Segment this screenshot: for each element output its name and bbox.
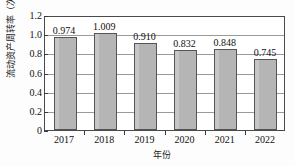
bar-value-label: 0.848 — [203, 37, 247, 48]
bar-value-label: 0.832 — [163, 38, 207, 49]
y-tick-label: 0 — [16, 126, 42, 136]
y-tick-label: 0.6 — [16, 69, 42, 79]
bar-value-label: 0.745 — [243, 47, 287, 58]
y-tick-label: 0.4 — [16, 88, 42, 98]
y-tick-mark — [44, 131, 48, 132]
bar-value-label: 0.910 — [122, 31, 166, 42]
bar — [174, 50, 197, 130]
bar-highlight — [255, 60, 259, 129]
bar-highlight — [215, 50, 219, 129]
bar-highlight — [95, 34, 99, 129]
x-tick-label: 2019 — [121, 134, 167, 145]
bar — [214, 49, 237, 130]
gridline — [45, 93, 284, 94]
bar — [94, 33, 117, 130]
y-tick-mark — [44, 54, 48, 55]
y-tick-mark — [44, 74, 48, 75]
x-tick-mark — [205, 131, 206, 135]
y-tick-mark — [44, 93, 48, 94]
bar — [54, 37, 77, 130]
x-axis-title: 年份 — [38, 148, 286, 161]
y-tick-mark — [44, 112, 48, 113]
x-tick-label: 2018 — [81, 134, 127, 145]
bar-value-label: 0.974 — [42, 25, 86, 36]
x-tick-mark — [245, 131, 246, 135]
x-tick-label: 2022 — [242, 134, 288, 145]
bar-chart: 流动资产周转率（次） 年份 1.21.00.80.60.40.20 0.9741… — [0, 0, 295, 166]
x-tick-mark — [165, 131, 166, 135]
x-tick-label: 2021 — [202, 134, 248, 145]
x-tick-mark — [84, 131, 85, 135]
bar — [254, 59, 277, 130]
y-tick-label: 0.8 — [16, 49, 42, 59]
bar — [134, 43, 157, 130]
y-tick-label: 1.0 — [16, 30, 42, 40]
x-tick-label: 2017 — [41, 134, 87, 145]
bar-value-label: 1.009 — [82, 21, 126, 32]
x-tick-mark — [124, 131, 125, 135]
bar-highlight — [175, 51, 179, 129]
bar-highlight — [55, 38, 59, 129]
y-tick-label: 1.2 — [16, 11, 42, 21]
x-tick-label: 2020 — [162, 134, 208, 145]
gridline — [45, 74, 284, 75]
y-tick-mark — [44, 16, 48, 17]
bar-highlight — [135, 44, 139, 129]
gridline — [45, 112, 284, 113]
y-tick-label: 0.2 — [16, 107, 42, 117]
